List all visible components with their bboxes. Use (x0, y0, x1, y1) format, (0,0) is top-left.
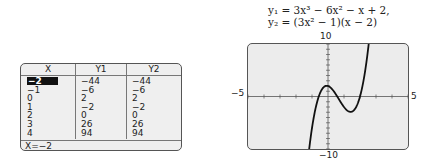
column-divider (126, 64, 127, 139)
table-cell: 4 (27, 129, 33, 137)
column-divider (75, 64, 76, 139)
calculator-table: X Y1 Y2 −2−44−44−1−6−60221−2−22003262649… (20, 63, 182, 151)
status-line: X=−2 (21, 140, 181, 150)
table-cell: 94 (81, 129, 92, 137)
equation-y1: y₁ = 3x³ − 6x² − x + 2, (268, 4, 390, 16)
header-x: X (21, 64, 75, 75)
equation-y2: y₂ = (3x² − 1)(x − 2) (268, 16, 377, 28)
graph-window (247, 43, 409, 150)
xmin-label: −5 (231, 88, 244, 98)
table-header: X Y1 Y2 (21, 64, 181, 76)
plot-area (248, 44, 408, 149)
table-cell: 94 (132, 129, 143, 137)
header-y1: Y1 (76, 64, 126, 75)
ymin-label: −10 (319, 150, 338, 160)
ymax-label: 10 (320, 31, 331, 41)
xmax-label: 5 (411, 91, 417, 101)
header-y2: Y2 (127, 64, 181, 75)
